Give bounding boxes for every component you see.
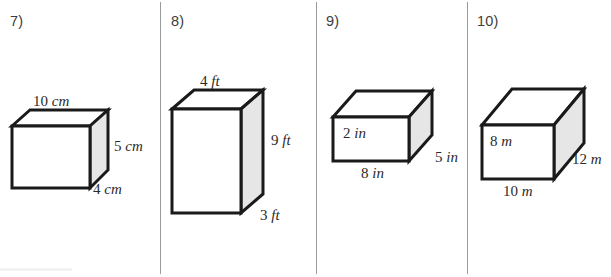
- problem-panel-10: 10) 8 m 10 m 12 m: [468, 0, 611, 277]
- prism-side-face: [241, 90, 263, 213]
- prism-front-face: [12, 126, 90, 188]
- dimension-unit: in: [446, 149, 458, 165]
- question-number-9: 9): [326, 13, 339, 29]
- problem-panel-7: 7) 10 cm 5 cm 4 cm: [0, 0, 160, 277]
- dimension-label-top-8: 4 ft: [200, 74, 220, 89]
- dimension-value: 8: [361, 165, 369, 181]
- dimension-value: 5: [114, 138, 122, 154]
- dimension-unit: m: [501, 133, 512, 149]
- dimension-label-top-7: 10 cm: [33, 94, 69, 109]
- question-number-8: 8): [171, 13, 184, 29]
- dimension-unit: ft: [271, 207, 279, 223]
- dimension-label-depth-7: 4 cm: [93, 182, 122, 197]
- dimension-label-height-9: 2 in: [343, 126, 366, 141]
- dimension-value: 3: [260, 207, 268, 223]
- question-number-7: 7): [10, 13, 23, 29]
- dimension-value: 5: [435, 149, 443, 165]
- dimension-label-right-7: 5 cm: [114, 139, 143, 154]
- dimension-label-depth-8: 3 ft: [260, 208, 280, 223]
- dimension-unit: cm: [125, 138, 143, 154]
- dimension-value: 12: [572, 151, 587, 167]
- dimension-value: 10: [33, 93, 48, 109]
- dimension-label-width-9: 8 in: [361, 166, 384, 181]
- dimension-unit: m: [591, 151, 602, 167]
- dimension-unit: in: [372, 165, 384, 181]
- dimension-label-width-10: 10 m: [503, 184, 533, 199]
- worksheet-page: 7) 10 cm 5 cm 4 cm 8): [0, 0, 611, 277]
- dimension-label-depth-9: 5 in: [435, 150, 458, 165]
- problem-panel-8: 8) 4 ft 9 ft 3 ft: [161, 0, 316, 277]
- dimension-value: 8: [490, 133, 498, 149]
- dimension-unit: ft: [282, 132, 290, 148]
- dimension-value: 4: [93, 181, 101, 197]
- prism-side-face: [90, 110, 108, 188]
- dimension-value: 10: [503, 183, 518, 199]
- problem-panel-9: 9) 2 in 8 in 5 in: [317, 0, 467, 277]
- prism-figure-8: [172, 88, 282, 223]
- dimension-label-depth-10: 12 m: [572, 152, 602, 167]
- prism-front-face: [172, 109, 241, 213]
- dimension-unit: ft: [211, 73, 219, 89]
- dimension-unit: cm: [52, 93, 70, 109]
- dimension-value: 4: [200, 73, 208, 89]
- question-number-10: 10): [477, 13, 499, 29]
- dimension-label-height-10: 8 m: [490, 134, 512, 149]
- dimension-label-right-8: 9 ft: [271, 133, 291, 148]
- dimension-value: 9: [271, 132, 279, 148]
- dimension-unit: m: [522, 183, 533, 199]
- dimension-value: 2: [343, 125, 351, 141]
- dimension-unit: in: [354, 125, 366, 141]
- dimension-unit: cm: [104, 181, 122, 197]
